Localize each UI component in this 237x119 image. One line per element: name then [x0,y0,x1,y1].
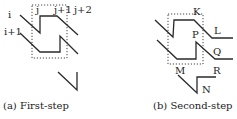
point-label-p: P [192,29,199,40]
point-label-m: M [175,65,185,76]
caption-second-step: (b) Second-step [153,100,232,111]
col-label-j-plus-2: j+2 [73,4,92,15]
polyline-row-i-plus-1 [20,33,78,54]
point-label-n: N [202,84,211,95]
point-label-q: Q [213,46,221,57]
col-label-j: j [35,4,39,15]
row-label-i: i [8,9,11,20]
panel-first-step: i i+1 j j+1 j+2 (a) First-step [3,4,92,111]
polyline-lower-fragment [58,72,77,90]
panel-second-step: K L P Q M R N (b) Second-step [153,6,233,111]
caption-first-step: (a) First-step [3,100,69,111]
polyline-row-i [20,15,78,35]
col-label-j-plus-1: j+1 [53,4,72,15]
point-label-k: K [193,6,201,17]
point-label-l: L [214,25,221,36]
point-label-r: R [213,65,221,76]
diagram-canvas: i i+1 j j+1 j+2 (a) First-step K L P Q M… [0,0,237,119]
row-label-i-plus-1: i+1 [4,26,22,37]
